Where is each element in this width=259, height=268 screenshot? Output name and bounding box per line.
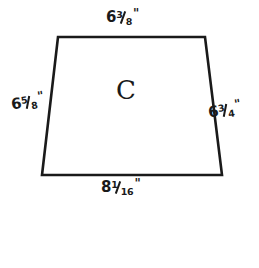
diagram-canvas: C 638" 8116" 658" 634" (0, 0, 259, 268)
dimension-top-denominator: 8 (126, 16, 132, 27)
dimension-label-bottom: 8116" (101, 180, 140, 195)
dimension-bottom-unit: " (135, 176, 141, 190)
dimension-bottom-fraction: 116 (111, 180, 133, 195)
trapezoid-outline (42, 37, 222, 175)
dimension-right-fraction: 34 (217, 102, 235, 119)
shape-center-label: C (112, 76, 140, 104)
dimension-top-whole: 6 (106, 8, 116, 26)
dimension-label-top: 638" (106, 10, 138, 25)
dimension-bottom-denominator: 16 (121, 186, 134, 197)
dimension-bottom-whole: 8 (101, 178, 111, 196)
dimension-top-fraction: 38 (116, 10, 132, 25)
trapezoid-shape (0, 0, 259, 268)
dimension-left-fraction: 58 (20, 94, 38, 111)
dimension-top-unit: " (133, 6, 139, 20)
